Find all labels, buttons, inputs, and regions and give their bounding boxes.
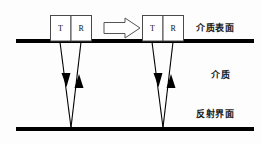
reflector-interface-label: 反射界面 (196, 110, 234, 119)
probe-right-transmitter-label: T (150, 25, 155, 33)
ray-right-up-arrowhead-icon (167, 74, 176, 88)
probe-right-receiver-label: R (171, 25, 176, 33)
probe-left-receiver-label: R (79, 25, 84, 33)
ray-left-downgoing-line (60, 42, 71, 128)
medium-region-label: 介质 (211, 71, 230, 80)
ray-path-group-left (60, 42, 84, 128)
ray-right-downgoing-line (152, 42, 163, 128)
probe-left[interactable] (51, 16, 92, 42)
medium-surface-label: 介质表面 (196, 24, 234, 33)
ray-left-down-arrowhead-icon (62, 73, 71, 87)
probe-left-transmitter-label: T (58, 25, 63, 33)
probe-right[interactable] (143, 16, 184, 42)
ray-left-up-arrowhead-icon (75, 74, 84, 88)
ray-right-down-arrowhead-icon (154, 73, 163, 87)
ultrasonic-reflection-diagram: T R T R 介质表面 介质 反射界面 (0, 0, 261, 144)
move-right-arrow-icon (104, 18, 140, 38)
ray-path-group-right (152, 42, 176, 128)
